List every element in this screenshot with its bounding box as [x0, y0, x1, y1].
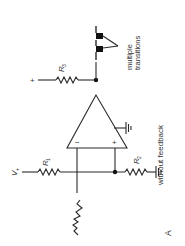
svg-text:2: 2: [136, 156, 142, 159]
supply-plus-label: +: [30, 76, 35, 85]
divider-node-dot: [113, 170, 117, 174]
svg-text:without feedback: without feedback: [156, 124, 165, 186]
svg-text:1: 1: [45, 158, 51, 161]
opamp-ground-icon: [114, 122, 131, 134]
vplus-label: V +: [10, 168, 20, 176]
r3-label: R 3: [57, 64, 67, 72]
svg-text:+: +: [14, 168, 20, 171]
caption: without feedback: [156, 124, 165, 186]
opamp-inverting-label: −: [75, 138, 80, 147]
svg-text:transitions: transitions: [133, 36, 142, 70]
schematic-canvas: + R 3 multiple transitions − + V +: [0, 0, 185, 246]
multiple-transitions-waveform: [96, 26, 118, 60]
r2-resistor: [125, 169, 147, 175]
r2-label: R 2: [132, 156, 142, 164]
svg-text:A: A: [163, 230, 173, 236]
r3-resistor: [56, 77, 78, 83]
opamp-noninverting-label: +: [112, 138, 117, 147]
noisy-input-signal: [73, 200, 82, 235]
panel-label: A: [163, 230, 173, 236]
svg-text:3: 3: [61, 64, 67, 67]
multiple-transitions-annotation: multiple transitions: [125, 36, 142, 70]
r1-resistor: [38, 169, 60, 175]
r1-label: R 1: [41, 158, 51, 166]
